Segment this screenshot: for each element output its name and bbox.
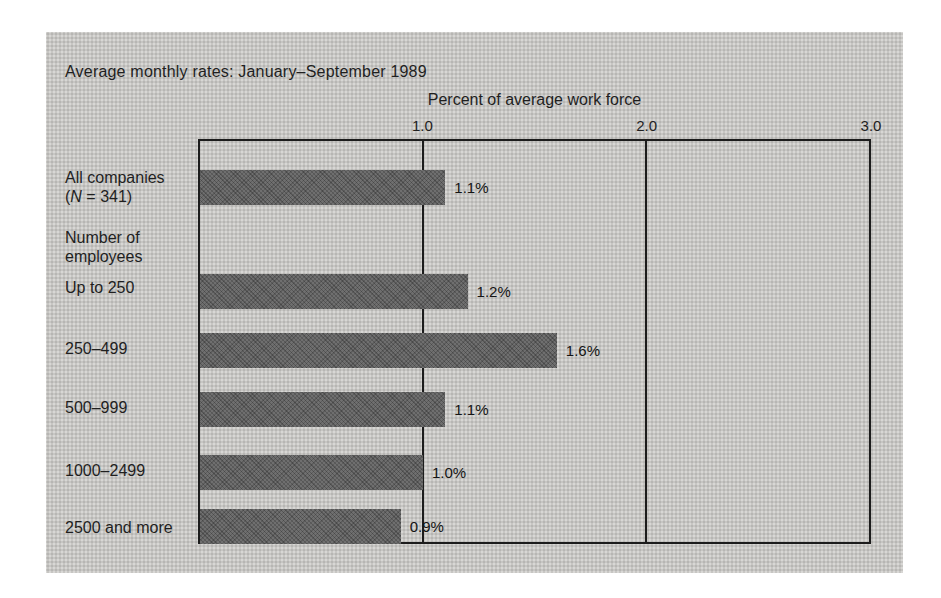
category-label-250-499: 250–499 bbox=[65, 339, 197, 358]
plot-area: 1.1% 1.2% 1.6% 1.1% 1.0% 0.9% bbox=[198, 139, 871, 544]
x-tick-1: 1.0 bbox=[412, 117, 433, 134]
category-label-2500-and-more: 2500 and more bbox=[65, 518, 197, 537]
bar-row-250-499: 1.6% bbox=[200, 333, 869, 368]
bar-500-999 bbox=[200, 392, 445, 427]
page: Average monthly rates: January–September… bbox=[0, 0, 941, 598]
chart-panel: Average monthly rates: January–September… bbox=[46, 32, 903, 573]
category-label-all-companies: All companies (N = 341) bbox=[65, 168, 197, 206]
bar-value-label: 0.9% bbox=[410, 518, 444, 535]
bar-row-500-999: 1.1% bbox=[200, 392, 869, 427]
bar-2500-and-more bbox=[200, 509, 401, 544]
bar-value-label: 1.6% bbox=[566, 342, 600, 359]
bar-value-label: 1.1% bbox=[454, 179, 488, 196]
bar-1000-2499 bbox=[200, 455, 423, 490]
category-label-line: All companies bbox=[65, 168, 197, 187]
category-label-line: (N = 341) bbox=[65, 187, 197, 206]
bar-value-label: 1.0% bbox=[432, 464, 466, 481]
bar-all-companies bbox=[200, 170, 445, 205]
section-header-line: Number of bbox=[65, 228, 197, 247]
chart-title: Average monthly rates: January–September… bbox=[65, 62, 427, 81]
x-tick-2: 2.0 bbox=[636, 117, 657, 134]
bar-up-to-250 bbox=[200, 274, 468, 309]
category-label-500-999: 500–999 bbox=[65, 398, 197, 417]
bar-250-499 bbox=[200, 333, 557, 368]
bar-row-1000-2499: 1.0% bbox=[200, 455, 869, 490]
x-tick-3: 3.0 bbox=[861, 117, 882, 134]
category-label-up-to-250: Up to 250 bbox=[65, 278, 197, 297]
x-axis-ticks: 1.0 2.0 3.0 bbox=[198, 117, 871, 135]
bar-row-up-to-250: 1.2% bbox=[200, 274, 869, 309]
bar-row-all-companies: 1.1% bbox=[200, 170, 869, 205]
x-axis-title: Percent of average work force bbox=[198, 91, 871, 109]
bar-value-label: 1.2% bbox=[477, 283, 511, 300]
bar-value-label: 1.1% bbox=[454, 401, 488, 418]
category-label-1000-2499: 1000–2499 bbox=[65, 461, 197, 480]
bar-row-2500-and-more: 0.9% bbox=[200, 509, 869, 544]
section-header-line: employees bbox=[65, 247, 197, 266]
section-header-number-of-employees: Number of employees bbox=[65, 228, 197, 266]
